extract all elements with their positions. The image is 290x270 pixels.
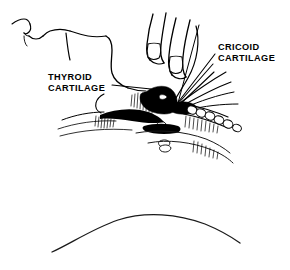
cartilage-fleck-bottom — [160, 145, 172, 152]
thyroid-isthmus-band — [143, 124, 181, 134]
tracheal-rings — [186, 104, 243, 133]
cricoid-leader-line-c — [177, 72, 214, 107]
thyroid-label-line1: THYROID — [48, 72, 92, 82]
upper-lip-line — [29, 36, 43, 39]
label-cricoid-cartilage: CRICOID CARTILAGE — [218, 42, 275, 63]
cricoid-label-line1: CRICOID — [218, 42, 260, 52]
shoulder-chest-arc — [52, 215, 240, 252]
chin-underside-line — [70, 31, 106, 37]
posterior-neck-curve — [96, 94, 104, 113]
jaw-vertical-line — [66, 33, 70, 60]
middle-finger-right-edge — [183, 20, 190, 77]
thyroid-label-line2: CARTILAGE — [48, 83, 105, 93]
index-fingernail — [147, 43, 160, 59]
sternocleidomastoid-line — [62, 112, 104, 120]
lower-neck-hatch — [193, 141, 218, 159]
illustration-canvas: THYROID CARTILAGE CRICOID CARTILAGE — [0, 0, 290, 270]
cricoid-label-line2: CARTILAGE — [218, 53, 275, 63]
middle-fingertip-pad — [172, 75, 186, 79]
index-finger-right-edge — [161, 13, 166, 63]
middle-fingernail — [169, 56, 182, 73]
medical-illustration-figure: THYROID CARTILAGE CRICOID CARTILAGE — [0, 0, 290, 270]
nose-tip-line — [24, 24, 31, 34]
thyroid-notch-highlight — [159, 95, 167, 100]
larynx-group — [95, 86, 197, 147]
clavicle-lower-line — [60, 129, 132, 136]
face-profile-group — [12, 19, 106, 46]
nose-bridge-line — [12, 19, 30, 24]
shoulder-arc-group — [52, 215, 240, 252]
chin-crease-line — [24, 36, 27, 46]
front-neck-line — [106, 36, 128, 88]
thyroid-leader-line — [112, 85, 151, 89]
label-thyroid-cartilage: THYROID CARTILAGE — [48, 72, 105, 93]
